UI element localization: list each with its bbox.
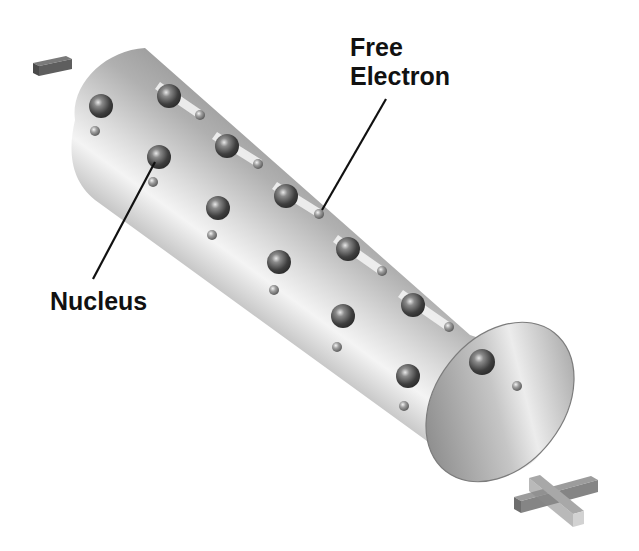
electron-icon: [253, 159, 263, 169]
nucleus-icon: [336, 237, 360, 261]
nucleus-icon: [396, 364, 420, 388]
nucleus-icon: [274, 184, 298, 208]
electron-icon: [195, 110, 205, 120]
electron-icon: [444, 322, 454, 332]
electron-icon: [377, 266, 387, 276]
electron-icon: [207, 230, 217, 240]
free-electron-label-line2: Electron: [350, 62, 450, 91]
plus-terminal-icon: [514, 475, 598, 527]
nucleus-icon: [157, 84, 181, 108]
electron-icon: [269, 285, 279, 295]
nucleus-icon: [215, 134, 239, 158]
electron-icon: [399, 401, 409, 411]
electron-icon: [314, 209, 324, 219]
nucleus-icon: [401, 293, 425, 317]
nucleus-label: Nucleus: [50, 287, 147, 316]
minus-terminal-icon: [33, 56, 72, 76]
electron-icon: [148, 177, 158, 187]
conductor-diagram: Free Electron Nucleus: [0, 0, 639, 551]
nucleus-icon: [331, 304, 355, 328]
conductor-cylinder: [72, 48, 605, 511]
nucleus-icon: [89, 94, 113, 118]
nucleus-icon: [267, 250, 291, 274]
free-electron-label-line1: Free: [350, 33, 450, 62]
free-electron-label: Free Electron: [350, 33, 450, 91]
electron-icon: [332, 342, 342, 352]
nucleus-icon: [206, 196, 230, 220]
electron-icon: [90, 126, 100, 136]
nucleus-icon: [147, 145, 171, 169]
nucleus-icon: [469, 349, 495, 375]
free-electron-leader-line: [322, 99, 386, 210]
diagram-canvas: [0, 0, 639, 551]
electron-icon: [512, 381, 522, 391]
